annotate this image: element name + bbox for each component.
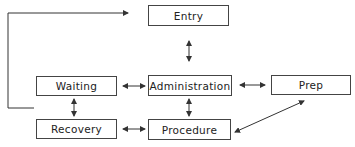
node-waiting: Waiting bbox=[36, 76, 117, 96]
node-label: Entry bbox=[174, 10, 203, 22]
node-label: Procedure bbox=[162, 124, 217, 136]
node-label: Administration bbox=[149, 80, 230, 92]
node-label: Waiting bbox=[56, 80, 98, 92]
node-label: Prep bbox=[299, 79, 324, 91]
node-entry: Entry bbox=[148, 5, 229, 26]
node-recovery: Recovery bbox=[36, 119, 117, 139]
node-label: Recovery bbox=[51, 123, 102, 135]
node-procedure: Procedure bbox=[148, 119, 231, 140]
node-administration: Administration bbox=[148, 75, 232, 96]
node-prep: Prep bbox=[271, 75, 351, 95]
procedure-prep-arrow bbox=[235, 101, 304, 132]
